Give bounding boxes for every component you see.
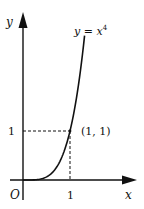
y-tick-label-1: 1 bbox=[8, 125, 15, 138]
y-axis-label: y bbox=[5, 15, 13, 29]
curve-label-exponent: 4 bbox=[103, 24, 108, 32]
y-axis-arrow-icon bbox=[19, 12, 28, 28]
curve-label: y = x4 bbox=[73, 24, 108, 38]
x-axis-label: x bbox=[125, 188, 132, 202]
x-axis-arrow-icon bbox=[122, 176, 137, 185]
function-graph: y x O 1 1 (1, 1) y = x4 bbox=[0, 0, 144, 209]
origin-label: O bbox=[10, 188, 20, 202]
point-label: (1, 1) bbox=[81, 125, 111, 138]
curve-label-text: y = x bbox=[73, 25, 103, 38]
point-1-1 bbox=[69, 130, 72, 133]
x-tick-label-1: 1 bbox=[67, 189, 74, 202]
curve-y-equals-x4 bbox=[23, 36, 85, 180]
